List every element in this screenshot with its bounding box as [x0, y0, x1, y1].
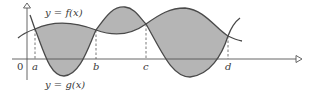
- x-axis-arrow-icon: [296, 56, 302, 63]
- label-b: b: [93, 61, 99, 72]
- label-d: d: [225, 61, 231, 72]
- label-f: y = f(x): [44, 7, 83, 18]
- label-g: y = g(x): [44, 79, 85, 90]
- label-a: a: [32, 61, 38, 72]
- area-between-curves-diagram: y = f(x) y = g(x) 0 a b c d: [0, 0, 313, 97]
- shaded-region-a-b: [35, 23, 96, 76]
- shaded-region-c-d: [146, 8, 228, 77]
- label-c: c: [143, 61, 149, 72]
- origin-label: 0: [17, 61, 23, 72]
- y-axis-arrow-icon: [24, 3, 31, 8]
